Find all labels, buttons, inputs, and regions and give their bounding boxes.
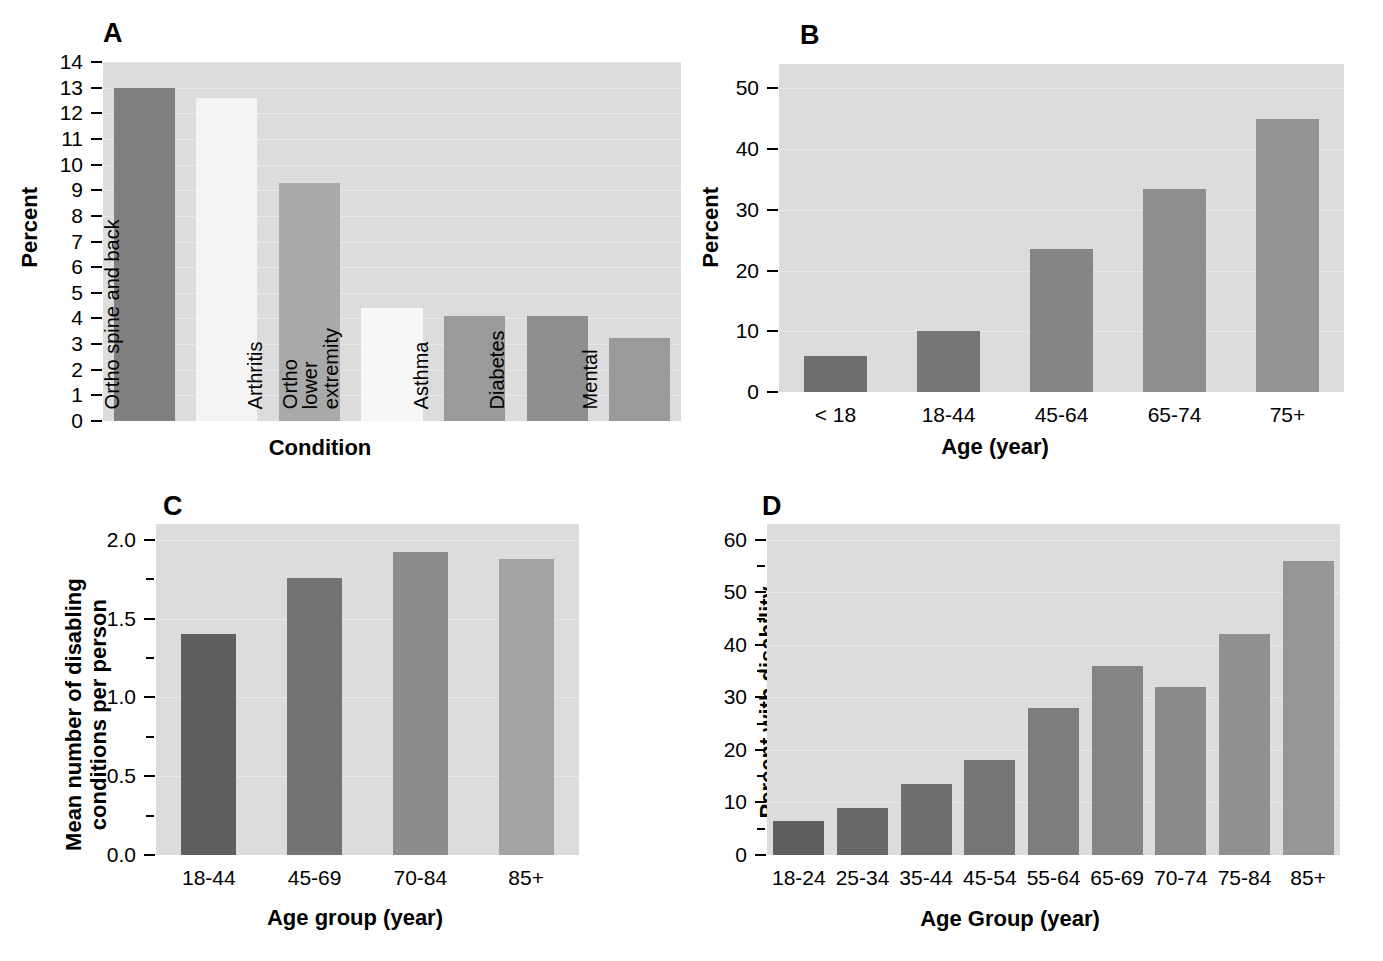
y-tick-mark (755, 801, 766, 803)
y-tick-label: 13 (0, 77, 83, 98)
gridline (103, 293, 681, 294)
y-tick-label: 30 (669, 199, 759, 220)
y-tick-label: 20 (657, 739, 747, 760)
y-tick-label: 11 (0, 128, 83, 149)
x-tick-label: 18-44 (892, 404, 1005, 425)
gridline (767, 592, 1340, 593)
y-tick-mark (91, 241, 102, 243)
bar (1219, 634, 1270, 855)
y-tick-mark (767, 209, 778, 211)
y-tick-mark-minor (757, 828, 765, 830)
gridline (103, 113, 681, 114)
y-tick-label: 14 (0, 51, 83, 72)
bar: Heart disease (114, 88, 175, 421)
gridline (103, 267, 681, 268)
bar (499, 559, 554, 855)
y-tick-mark-minor (757, 618, 765, 620)
y-tick-label: 1.0 (46, 686, 136, 707)
bar (1283, 561, 1334, 855)
y-tick-mark (91, 369, 102, 371)
bar (1155, 687, 1206, 855)
y-tick-mark (144, 775, 155, 777)
x-tick-label: 25-34 (831, 867, 895, 888)
panel-d-plot-area (767, 524, 1340, 855)
y-tick-label: 20 (669, 260, 759, 281)
panel-a-xlabel: Condition (130, 435, 510, 461)
y-tick-mark (755, 644, 766, 646)
panel-b-letter: B (800, 22, 820, 49)
bar (917, 331, 980, 392)
gridline (779, 88, 1344, 89)
bar-label: Arthritis (245, 341, 265, 409)
bar (837, 808, 888, 855)
gridline (103, 88, 681, 89)
y-tick-mark (91, 112, 102, 114)
y-tick-label: 2 (0, 359, 83, 380)
x-tick-label: 35-44 (894, 867, 958, 888)
panel-a-plot-area: Heart diseaseOrtho spine and backArthrit… (103, 62, 681, 421)
x-tick-label: < 18 (779, 404, 892, 425)
bar (287, 578, 342, 855)
bar (773, 821, 824, 855)
y-tick-label: 50 (657, 581, 747, 602)
y-tick-label: 60 (657, 529, 747, 550)
y-tick-mark (144, 539, 155, 541)
panel-b-xlabel: Age (year) (830, 434, 1160, 460)
bar (181, 634, 236, 855)
bar (393, 552, 448, 855)
gridline (767, 540, 1340, 541)
y-tick-mark (144, 696, 155, 698)
bar: Mental (609, 338, 670, 421)
bar (1028, 708, 1079, 855)
y-tick-label: 0.0 (46, 844, 136, 865)
x-tick-label: 45-69 (262, 867, 368, 888)
x-tick-label: 45-54 (958, 867, 1022, 888)
gridline (103, 165, 681, 166)
y-tick-label: 6 (0, 256, 83, 277)
y-tick-label: 10 (657, 791, 747, 812)
y-tick-label: 10 (669, 320, 759, 341)
bar-label: Ortho lower extremity (280, 328, 341, 409)
x-tick-label: 70-74 (1149, 867, 1213, 888)
x-tick-label: 85+ (1276, 867, 1340, 888)
y-tick-label: 0 (0, 410, 83, 431)
y-tick-label: 12 (0, 102, 83, 123)
x-tick-label: 18-44 (156, 867, 262, 888)
y-tick-label: 3 (0, 333, 83, 354)
y-tick-mark-minor (146, 736, 154, 738)
gridline (103, 242, 681, 243)
bar (1143, 189, 1206, 392)
y-tick-label: 50 (669, 77, 759, 98)
y-tick-label: 10 (0, 154, 83, 175)
y-tick-label: 8 (0, 205, 83, 226)
y-tick-mark (755, 539, 766, 541)
y-tick-label: 7 (0, 231, 83, 252)
y-tick-label: 0 (669, 381, 759, 402)
y-tick-mark (91, 215, 102, 217)
y-tick-mark-minor (146, 578, 154, 580)
y-tick-mark (144, 854, 155, 856)
y-tick-mark (767, 391, 778, 393)
y-tick-label: 30 (657, 686, 747, 707)
y-tick-label: 40 (669, 138, 759, 159)
y-tick-label: 4 (0, 307, 83, 328)
y-tick-mark (767, 270, 778, 272)
y-tick-mark (91, 164, 102, 166)
y-tick-mark (767, 148, 778, 150)
bar (1030, 249, 1093, 392)
x-tick-label: 55-64 (1022, 867, 1086, 888)
y-tick-mark (767, 330, 778, 332)
y-tick-mark-minor (757, 775, 765, 777)
x-tick-label: 18-24 (767, 867, 831, 888)
panel-c-letter: C (163, 493, 183, 520)
y-tick-mark-minor (757, 565, 765, 567)
y-tick-label: 0 (657, 844, 747, 865)
bar-label: Diabetes (487, 330, 507, 409)
x-tick-label: 85+ (473, 867, 579, 888)
bar (804, 356, 867, 392)
y-tick-mark (755, 749, 766, 751)
panel-b-plot-area (779, 64, 1344, 392)
gridline (103, 216, 681, 217)
y-tick-label: 5 (0, 282, 83, 303)
y-tick-label: 0.5 (46, 765, 136, 786)
